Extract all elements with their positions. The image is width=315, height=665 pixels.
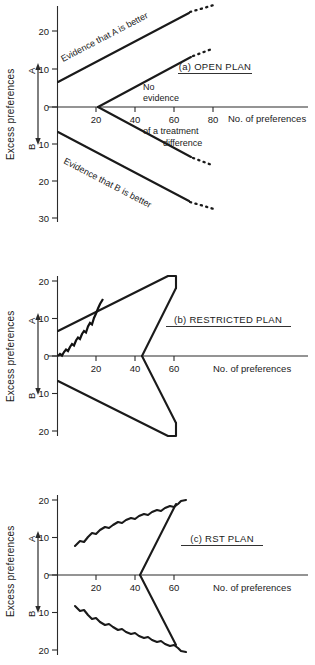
y-tick-label: 20 xyxy=(38,176,49,187)
panel-title-c: (c) RST PLAN xyxy=(190,533,254,544)
x-axis-title: No. of preferences xyxy=(228,113,306,124)
panel-a-svg: Excess preferences A B 20 10 0 xyxy=(0,0,315,232)
region-label-line-2: evidence xyxy=(143,93,179,103)
x-tick-label: 40 xyxy=(130,114,141,125)
x-tick-label: 80 xyxy=(208,114,219,125)
chart-panel-restricted-plan: Excess preferences A B 20 10 0 10 2 xyxy=(0,232,315,457)
direction-label-b: B xyxy=(26,611,37,617)
direction-label-a: A xyxy=(26,317,37,324)
y-tick-label: 20 xyxy=(38,26,49,37)
y-tick-label: 30 xyxy=(38,213,49,224)
x-ticks-b: 20 40 60 xyxy=(91,356,180,374)
lower-significance-boundary xyxy=(75,606,186,652)
y-axis-label-group-c: Excess preferences A B xyxy=(5,526,41,617)
y-tick-label: 10 xyxy=(38,64,49,75)
y-tick-label: 0 xyxy=(44,351,49,362)
region-label-line-4: difference xyxy=(163,138,202,148)
y-tick-label: 10 xyxy=(38,388,49,399)
y-axis-label-group-b: Excess preferences A B xyxy=(5,311,41,402)
direction-label-a: A xyxy=(26,67,37,74)
y-tick-label: 10 xyxy=(38,313,49,324)
y-ticks-b: 20 10 0 10 20 xyxy=(38,276,57,437)
x-tick-label: 20 xyxy=(91,114,102,125)
x-tick-label: 20 xyxy=(91,582,102,593)
x-ticks-c: 20 40 60 xyxy=(91,575,180,593)
region-label-line-1: No xyxy=(143,82,155,92)
sequential-trial-boundaries-figure: Excess preferences A B 20 10 0 xyxy=(0,0,315,665)
y-tick-label: 10 xyxy=(38,532,49,543)
upper-no-difference-boundary-extrapolated xyxy=(193,49,212,56)
y-axis-title: Excess preferences xyxy=(5,311,16,402)
x-tick-label: 40 xyxy=(130,363,141,374)
y-tick-label: 10 xyxy=(38,139,49,150)
y-axis-title: Excess preferences xyxy=(5,69,16,160)
y-tick-label: 20 xyxy=(38,645,49,656)
x-ticks-a: 20 40 60 80 xyxy=(91,107,219,125)
lower-boundary-label: Evidence that B is better xyxy=(62,156,153,210)
direction-label-b: B xyxy=(26,144,37,150)
chart-panel-open-plan: Excess preferences A B 20 10 0 xyxy=(0,0,315,232)
x-tick-label: 60 xyxy=(169,582,180,593)
chart-panel-rst-plan: Excess preferences A B 20 10 0 10 2 xyxy=(0,457,315,665)
y-axis-label-group-a: Excess preferences A B xyxy=(5,63,41,160)
upper-significance-boundary-extrapolated xyxy=(190,5,214,12)
y-tick-label: 0 xyxy=(44,102,49,113)
y-ticks-c: 20 10 0 10 20 xyxy=(38,495,57,656)
y-tick-label: 0 xyxy=(44,570,49,581)
upper-significance-boundary xyxy=(75,500,186,546)
lower-significance-boundary-extrapolated xyxy=(190,202,214,209)
panel-b-svg: Excess preferences A B 20 10 0 10 2 xyxy=(0,232,315,457)
panel-c-svg: Excess preferences A B 20 10 0 10 2 xyxy=(0,457,315,665)
y-tick-label: 20 xyxy=(38,426,49,437)
y-tick-label: 20 xyxy=(38,495,49,506)
x-axis-title: No. of preferences xyxy=(213,363,291,374)
y-tick-label: 20 xyxy=(38,276,49,287)
y-tick-label: 10 xyxy=(38,607,49,618)
x-axis-title: No. of preferences xyxy=(213,582,291,593)
panel-title-b: (b) RESTRICTED PLAN xyxy=(174,314,282,325)
region-label-line-3: of a treatment xyxy=(143,126,199,136)
y-ticks-a: 20 10 0 10 20 30 xyxy=(38,26,57,224)
y-axis-title: Excess preferences xyxy=(5,526,16,617)
upper-boundary-label: Evidence that A is better xyxy=(59,10,149,63)
direction-label-a: A xyxy=(26,535,37,542)
lower-no-difference-boundary-extrapolated xyxy=(193,158,212,165)
panel-title-a: (a) OPEN PLAN xyxy=(179,61,252,72)
x-tick-label: 20 xyxy=(91,363,102,374)
inner-upper-boundary xyxy=(142,288,176,356)
x-tick-label: 60 xyxy=(169,363,180,374)
x-tick-label: 60 xyxy=(169,114,180,125)
direction-label-b: B xyxy=(26,393,37,399)
x-tick-label: 40 xyxy=(130,582,141,593)
